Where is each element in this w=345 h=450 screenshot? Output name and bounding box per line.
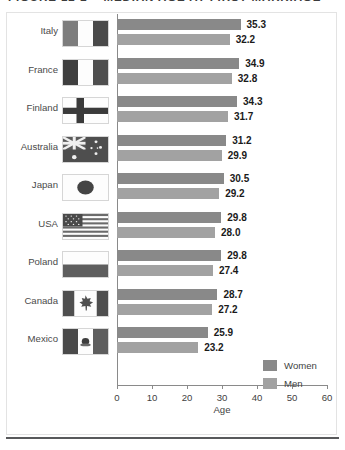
- bar-value-women: 30.5: [230, 173, 249, 184]
- legend-swatch: [263, 378, 277, 389]
- flag-italy-icon: [62, 20, 109, 47]
- bar-value-men: 23.2: [204, 342, 223, 353]
- bar-men: [117, 265, 213, 276]
- chart-legend: WomenMen: [263, 358, 317, 394]
- bar-women: [117, 327, 208, 338]
- x-tick-label: 10: [147, 392, 158, 403]
- x-tick-label: 40: [252, 392, 263, 403]
- bar-value-men: 32.8: [238, 73, 257, 84]
- bar-women: [117, 289, 217, 300]
- flag-australia-icon: [62, 136, 109, 163]
- bar-women: [117, 19, 241, 30]
- legend-label: Women: [284, 360, 317, 371]
- bar-value-women: 25.9: [214, 327, 233, 338]
- bar-value-men: 27.4: [219, 265, 238, 276]
- bottom-rule: [6, 437, 339, 439]
- bar-men: [117, 73, 232, 84]
- bar-men: [117, 342, 198, 353]
- bar-men: [117, 304, 212, 315]
- chart-row: Mexico25.923.2: [0, 322, 345, 361]
- bar-women: [117, 58, 239, 69]
- chart-row: Italy35.332.2: [0, 14, 345, 53]
- x-tick: [257, 385, 258, 389]
- x-tick: [187, 385, 188, 389]
- chart-row: Australia31.229.9: [0, 130, 345, 169]
- x-tick-label: 20: [182, 392, 193, 403]
- bar-women: [117, 96, 237, 107]
- country-label: USA: [0, 218, 58, 229]
- row-plot-area: 31.229.9: [117, 130, 345, 169]
- bar-value-men: 29.2: [225, 188, 244, 199]
- country-label: France: [0, 64, 58, 75]
- bar-value-women: 31.2: [232, 135, 251, 146]
- country-label: Mexico: [0, 333, 58, 344]
- row-plot-area: 25.923.2: [117, 322, 345, 361]
- country-label: Italy: [0, 25, 58, 36]
- bar-men: [117, 188, 219, 199]
- bar-women: [117, 212, 221, 223]
- flag-canada-icon: [62, 290, 109, 317]
- bar-women: [117, 135, 226, 146]
- figure-title-text: MEDIAN AGE AT FIRST MARRIAGE: [104, 0, 322, 3]
- row-plot-area: 34.932.8: [117, 53, 345, 92]
- bar-value-men: 32.2: [236, 34, 255, 45]
- bar-women: [117, 250, 221, 261]
- row-plot-area: 35.332.2: [117, 14, 345, 53]
- bar-value-women: 34.3: [243, 96, 262, 107]
- bar-value-men: 28.0: [221, 227, 240, 238]
- bar-women: [117, 173, 224, 184]
- bar-men: [117, 111, 228, 122]
- bar-men: [117, 227, 215, 238]
- x-tick-label: 0: [114, 392, 119, 403]
- chart-row: France34.932.8: [0, 53, 345, 92]
- chart-row: Canada28.727.2: [0, 284, 345, 323]
- chart-row: Poland29.827.4: [0, 245, 345, 284]
- bar-value-men: 31.7: [234, 111, 253, 122]
- x-tick: [117, 385, 118, 389]
- figure-number: FIGURE 12-2: [8, 0, 88, 3]
- row-plot-area: 34.331.7: [117, 91, 345, 130]
- flag-japan-icon: [62, 174, 109, 201]
- country-label: Australia: [0, 141, 58, 152]
- chart-rows: Italy35.332.2France34.932.8Finland34.331…: [0, 14, 345, 361]
- bar-value-women: 35.3: [247, 19, 266, 30]
- x-axis-label: Age: [117, 404, 327, 415]
- legend-label: Men: [284, 378, 303, 389]
- figure-container: FIGURE 12-2MEDIAN AGE AT FIRST MARRIAGE …: [0, 0, 345, 450]
- row-plot-area: 28.727.2: [117, 284, 345, 323]
- bar-value-women: 29.8: [227, 212, 246, 223]
- bar-men: [117, 150, 222, 161]
- country-label: Poland: [0, 256, 58, 267]
- x-tick-label: 60: [322, 392, 333, 403]
- flag-france-icon: [62, 59, 109, 86]
- x-tick-label: 30: [217, 392, 228, 403]
- legend-swatch: [263, 360, 277, 371]
- x-tick: [152, 385, 153, 389]
- legend-item: Women: [263, 358, 317, 373]
- flag-mexico-icon: [62, 328, 109, 355]
- flag-usa-icon: [62, 213, 109, 240]
- bar-value-men: 27.2: [218, 304, 237, 315]
- row-plot-area: 29.827.4: [117, 245, 345, 284]
- bar-value-women: 34.9: [245, 58, 264, 69]
- flag-poland-icon: [62, 251, 109, 278]
- country-label: Japan: [0, 179, 58, 190]
- chart-row: Japan30.529.2: [0, 168, 345, 207]
- bar-men: [117, 34, 230, 45]
- chart-row: Finland34.331.7: [0, 91, 345, 130]
- flag-finland-icon: [62, 97, 109, 124]
- legend-item: Men: [263, 376, 317, 391]
- country-label: Canada: [0, 295, 58, 306]
- bar-value-women: 28.7: [223, 289, 242, 300]
- bar-value-men: 29.9: [228, 150, 247, 161]
- row-plot-area: 30.529.2: [117, 168, 345, 207]
- country-label: Finland: [0, 102, 58, 113]
- row-plot-area: 29.828.0: [117, 207, 345, 246]
- chart-row: USA29.828.0: [0, 207, 345, 246]
- x-tick: [327, 385, 328, 389]
- figure-title: FIGURE 12-2MEDIAN AGE AT FIRST MARRIAGE: [8, 0, 338, 5]
- x-tick: [222, 385, 223, 389]
- bar-value-women: 29.8: [227, 250, 246, 261]
